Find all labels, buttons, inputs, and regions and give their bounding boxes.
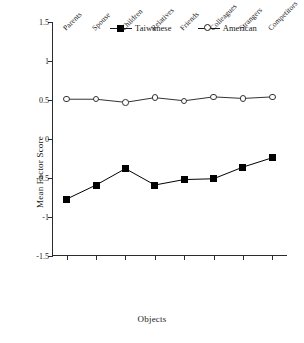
plot-area: 1.510.50-0.5-1-1.5 ParentsSpouseChildren… (52, 22, 287, 256)
data-series-layer (52, 22, 287, 256)
chart-figure: Taiwanese American 1.510.50-0.5-1-1.5 Pa… (0, 0, 304, 343)
data-point-taiwanese (239, 164, 246, 171)
data-point-american (152, 94, 159, 101)
y-axis-title: Mean Factor Score (35, 136, 45, 208)
data-point-taiwanese (210, 175, 217, 182)
y-tick-label: -1.5 (36, 252, 49, 261)
data-point-american (122, 99, 129, 106)
data-point-taiwanese (151, 182, 158, 189)
data-point-taiwanese (63, 196, 70, 203)
y-tick-label: 0.5 (39, 96, 49, 105)
data-point-american (269, 94, 276, 101)
series-lines (52, 22, 287, 256)
data-point-american (210, 94, 217, 101)
data-point-taiwanese (181, 176, 188, 183)
x-axis-title: Objects (0, 314, 304, 324)
y-tick-label: 1 (45, 57, 49, 66)
y-tick-label: 1.5 (39, 18, 49, 27)
data-point-taiwanese (122, 165, 129, 172)
y-tick-label: -1 (42, 213, 49, 222)
data-point-taiwanese (93, 182, 100, 189)
data-point-taiwanese (269, 154, 276, 161)
data-point-american (240, 95, 247, 102)
y-tick-label: 0 (45, 135, 49, 144)
